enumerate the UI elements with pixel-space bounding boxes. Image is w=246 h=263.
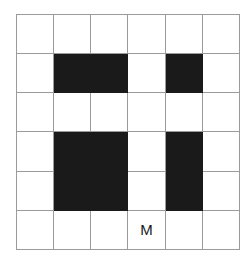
grid-body: M: [17, 15, 240, 250]
grid-cell-r2-c6[interactable]: [202, 54, 239, 93]
grid-row: [17, 15, 240, 54]
cell-label: M: [140, 222, 153, 237]
grid-cell-r5-c5[interactable]: [165, 171, 202, 210]
grid-row: [17, 93, 240, 132]
grid-cell-r3-c4[interactable]: [128, 93, 165, 132]
grid-cell-r1-c4[interactable]: [128, 15, 165, 54]
grid-cell-r1-c2[interactable]: [54, 15, 91, 54]
grid-cell-r4-c5[interactable]: [165, 132, 202, 171]
grid-cell-r2-c5[interactable]: [165, 54, 202, 93]
grid-cell-r2-c3[interactable]: [91, 54, 128, 93]
grid-row: [17, 54, 240, 93]
grid-occupancy-diagram: M: [16, 14, 233, 243]
grid-cell-r4-c2[interactable]: [54, 132, 91, 171]
grid-cell-r3-c3[interactable]: [91, 93, 128, 132]
grid-cell-r3-c1[interactable]: [17, 93, 54, 132]
grid-cell-r4-c4[interactable]: [128, 132, 165, 171]
grid-cell-r4-c1[interactable]: [17, 132, 54, 171]
grid-row: [17, 171, 240, 210]
grid-cell-r3-c2[interactable]: [54, 93, 91, 132]
grid-cell-r6-c4[interactable]: M: [128, 210, 165, 249]
grid-row: M: [17, 210, 240, 249]
grid-cell-r3-c6[interactable]: [202, 93, 239, 132]
grid-cell-r5-c1[interactable]: [17, 171, 54, 210]
grid-cell-r6-c6[interactable]: [202, 210, 239, 249]
grid-row: [17, 132, 240, 171]
grid-table: M: [16, 14, 240, 250]
grid-cell-r2-c4[interactable]: [128, 54, 165, 93]
grid-cell-r4-c6[interactable]: [202, 132, 239, 171]
grid-cell-r1-c3[interactable]: [91, 15, 128, 54]
grid-cell-r5-c6[interactable]: [202, 171, 239, 210]
grid-cell-r6-c3[interactable]: [91, 210, 128, 249]
grid-cell-r2-c2[interactable]: [54, 54, 91, 93]
grid-cell-r1-c1[interactable]: [17, 15, 54, 54]
grid-cell-r3-c5[interactable]: [165, 93, 202, 132]
grid-cell-r1-c5[interactable]: [165, 15, 202, 54]
grid-cell-r4-c3[interactable]: [91, 132, 128, 171]
grid-cell-r5-c4[interactable]: [128, 171, 165, 210]
grid-cell-r5-c3[interactable]: [91, 171, 128, 210]
grid-cell-r6-c1[interactable]: [17, 210, 54, 249]
grid-cell-r6-c5[interactable]: [165, 210, 202, 249]
grid-cell-r5-c2[interactable]: [54, 171, 91, 210]
grid-cell-r6-c2[interactable]: [54, 210, 91, 249]
grid-cell-r1-c6[interactable]: [202, 15, 239, 54]
grid-cell-r2-c1[interactable]: [17, 54, 54, 93]
